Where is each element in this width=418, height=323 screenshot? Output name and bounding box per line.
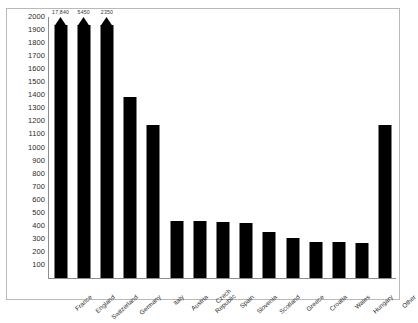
bar-slot: [281, 9, 304, 278]
x-axis-tick: Wales: [327, 281, 350, 301]
y-axis-tick-label: 1900: [11, 26, 45, 34]
y-axis-tick-label: 1800: [11, 39, 45, 47]
bar-stem: [100, 25, 113, 278]
bar-series: 17,84054502350: [49, 9, 397, 301]
y-axis-tick-label: 1500: [11, 78, 45, 86]
bar-slot: [211, 9, 234, 278]
y-axis-tick-label: 1700: [11, 52, 45, 60]
y-axis-tick-label: 1200: [11, 117, 45, 125]
y-axis-tick-label: 700: [11, 183, 45, 191]
bar[interactable]: [193, 221, 206, 278]
bar-stem: [77, 25, 90, 278]
bar[interactable]: [77, 17, 90, 278]
bar[interactable]: [286, 238, 299, 278]
y-axis-tick-label: 100: [11, 261, 45, 269]
y-axis-tick-label: 400: [11, 222, 45, 230]
bar-slot: [304, 9, 327, 278]
bar[interactable]: [309, 242, 322, 278]
x-axis-tick: Scotland: [258, 281, 281, 301]
x-axis-tick: Slovenia: [235, 281, 258, 301]
bar-slot: [142, 9, 165, 278]
y-axis: 2000190018001700160015001400130012001100…: [11, 9, 45, 301]
bar-stem: [54, 25, 67, 278]
bar[interactable]: [124, 97, 137, 278]
bar[interactable]: [147, 125, 160, 278]
x-axis-tick: Hungary: [351, 281, 374, 301]
bar-slot: [188, 9, 211, 278]
bar-slot: 2350: [95, 9, 118, 278]
bar-value-label: 17,840: [52, 9, 69, 15]
x-axis-tick: Other: [374, 281, 397, 301]
y-axis-tick-label: 2000: [11, 13, 45, 21]
bar[interactable]: [100, 17, 113, 278]
bar-slot: [351, 9, 374, 278]
bar-slot: [327, 9, 350, 278]
bar-value-label: 2350: [101, 9, 113, 15]
y-axis-tick-label: 1300: [11, 104, 45, 112]
bar-chart: 2000190018001700160015001400130012001100…: [6, 8, 400, 300]
plot-area: 2000190018001700160015001400130012001100…: [7, 9, 401, 301]
bar[interactable]: [356, 243, 369, 278]
x-axis-tick: Germany: [119, 281, 142, 301]
x-axis-tick: Spain: [211, 281, 234, 301]
x-axis-tick: Czech Republic: [188, 281, 211, 301]
bar-slot: [119, 9, 142, 278]
bar-slot: 5450: [72, 9, 95, 278]
bar-slot: [258, 9, 281, 278]
x-axis-tick: Greece: [281, 281, 304, 301]
x-axis-tick: Austria: [165, 281, 188, 301]
x-axis: FranceEnglandSwitzerlandGermanyItalyAust…: [49, 281, 397, 301]
bar[interactable]: [332, 242, 345, 278]
y-axis-tick-label: 600: [11, 196, 45, 204]
y-axis-tick-label: 300: [11, 235, 45, 243]
y-axis-tick-label: 200: [11, 248, 45, 256]
bar[interactable]: [379, 125, 392, 278]
x-axis-tick: France: [49, 281, 72, 301]
bar[interactable]: [240, 223, 253, 278]
x-axis-tick: Italy: [142, 281, 165, 301]
y-axis-tick-label: 800: [11, 170, 45, 178]
bar-value-label: 5450: [78, 9, 90, 15]
bar-slot: [165, 9, 188, 278]
bar-slot: [374, 9, 397, 278]
y-axis-tick-label: 900: [11, 157, 45, 165]
y-axis-tick-label: 1400: [11, 91, 45, 99]
bar[interactable]: [54, 17, 67, 278]
y-axis-tick-label: 1000: [11, 144, 45, 152]
x-axis-tick: England: [72, 281, 95, 301]
x-axis-tick: Switzerland: [95, 281, 118, 301]
x-axis-tick: Croatia: [304, 281, 327, 301]
y-axis-tick-label: 1600: [11, 65, 45, 73]
bar[interactable]: [170, 221, 183, 278]
bar[interactable]: [216, 222, 229, 278]
y-axis-tick-label: 500: [11, 209, 45, 217]
y-axis-tick-label: 1100: [11, 130, 45, 138]
bar[interactable]: [263, 232, 276, 278]
bar-slot: 17,840: [49, 9, 72, 278]
bar-slot: [235, 9, 258, 278]
